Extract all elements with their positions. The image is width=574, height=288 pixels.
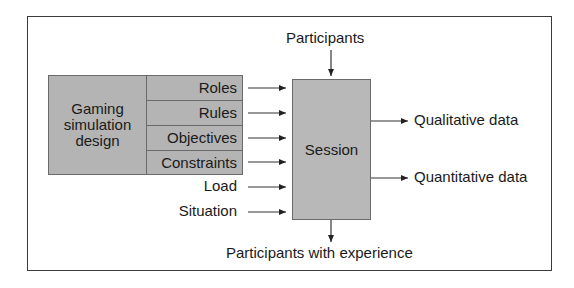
connector-arrows: [0, 0, 574, 288]
